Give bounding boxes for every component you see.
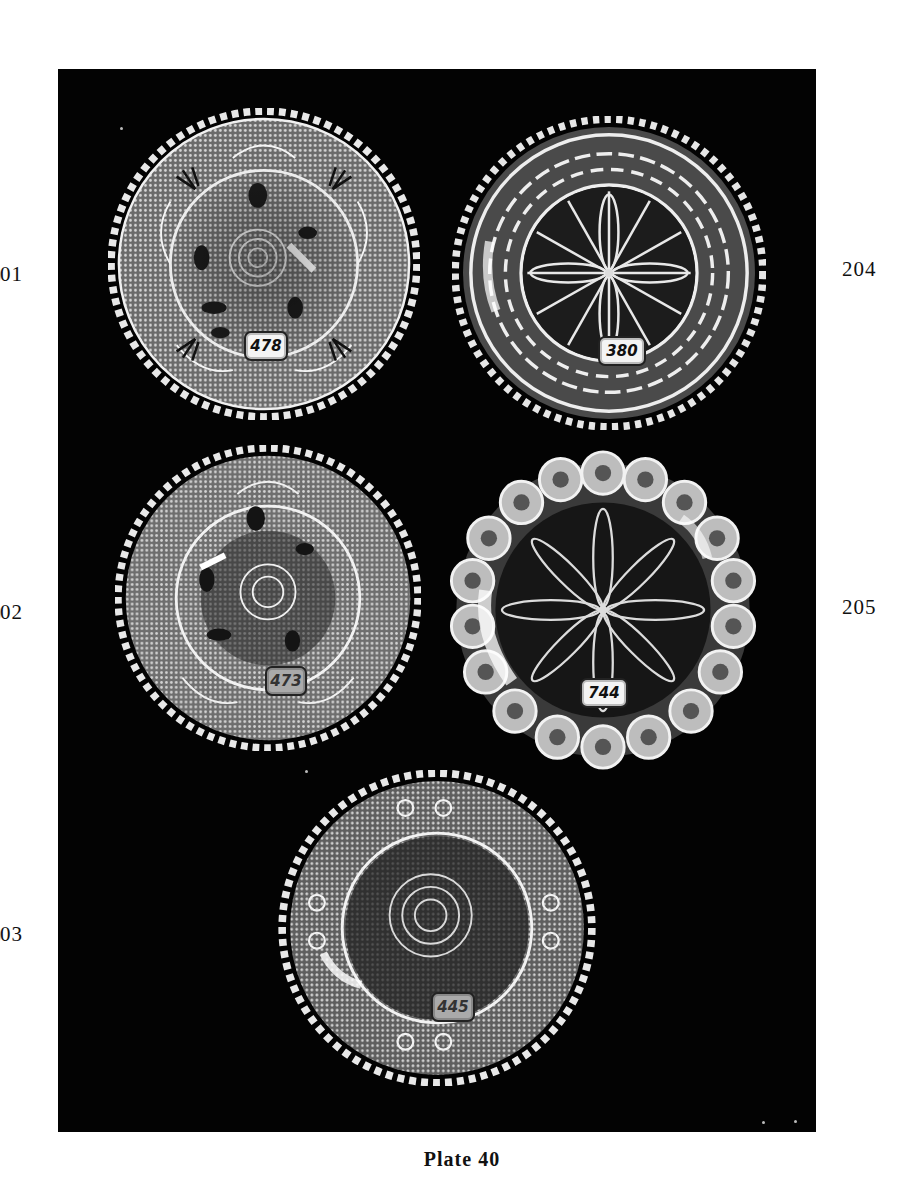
plate-number-204: 204 <box>842 257 877 282</box>
dust-speck <box>120 127 123 130</box>
starburst-glass-plate-icon <box>452 116 766 430</box>
catalog-tag: 744 <box>582 680 626 706</box>
plate-number-202: 02 <box>0 600 23 625</box>
glass-plate-bottom-center: 445 <box>278 770 596 1086</box>
lacy-glass-plate-icon <box>108 108 420 420</box>
dust-speck <box>762 1121 765 1124</box>
rosette-glass-plate-icon <box>438 447 768 773</box>
lacy-glass-plate-icon <box>278 770 596 1086</box>
glass-plate-top-right: 380 <box>452 116 766 430</box>
catalog-tag: 473 <box>267 668 305 694</box>
dust-speck <box>305 770 308 773</box>
dust-speck <box>794 1120 797 1123</box>
plate-caption: Plate 40 <box>0 1148 924 1171</box>
plate-number-205: 205 <box>842 595 877 620</box>
glass-plate-middle-left: 473 <box>115 445 421 751</box>
lacy-glass-plate-icon <box>115 445 421 751</box>
catalog-tag: 445 <box>433 994 473 1020</box>
glass-plate-middle-right: 744 <box>438 447 768 773</box>
catalog-tag: 478 <box>246 333 286 359</box>
catalog-tag: 380 <box>600 338 644 364</box>
glass-plate-top-left: 478 <box>108 108 420 420</box>
plate-number-201: 01 <box>0 262 23 287</box>
plate-number-203: 03 <box>0 922 23 947</box>
